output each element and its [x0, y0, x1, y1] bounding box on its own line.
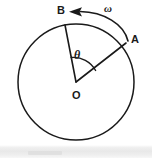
diagram-canvas: [0, 0, 152, 158]
label-angle-theta: θ: [74, 49, 80, 61]
rotation-arrow-curve: [80, 12, 128, 42]
label-center-o: O: [72, 90, 81, 101]
scan-edge-speck: [28, 151, 62, 155]
circular-motion-figure: B A O θ ω: [0, 0, 152, 158]
label-point-a: A: [131, 34, 139, 45]
scan-edge-artifact: [0, 145, 152, 158]
radius-oa-line: [76, 43, 126, 82]
label-angular-velocity-omega: ω: [104, 3, 112, 14]
label-point-b: B: [57, 5, 65, 16]
